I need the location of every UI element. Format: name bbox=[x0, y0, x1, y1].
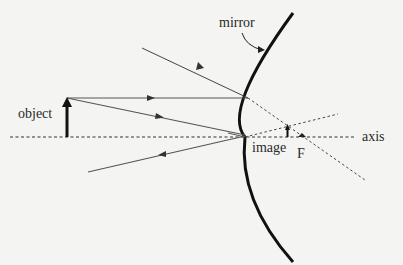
virtual-extension-1 bbox=[248, 98, 365, 180]
mirror-pointer-arrowhead-icon bbox=[258, 46, 265, 53]
reflected-ray-2 bbox=[88, 136, 245, 172]
reflected-ray-1 bbox=[142, 48, 248, 98]
ray-arrowhead-icon bbox=[196, 62, 204, 70]
focal-point-label: F bbox=[297, 146, 305, 161]
image-label: image bbox=[252, 140, 286, 155]
axis-label: axis bbox=[362, 129, 385, 144]
mirror-label: mirror bbox=[219, 15, 255, 30]
ray-arrowhead-icon bbox=[147, 95, 155, 101]
convex-mirror-ray-diagram: mirror object image F axis bbox=[0, 0, 403, 265]
virtual-extension-2 bbox=[245, 114, 338, 137]
object-label: object bbox=[18, 106, 52, 121]
